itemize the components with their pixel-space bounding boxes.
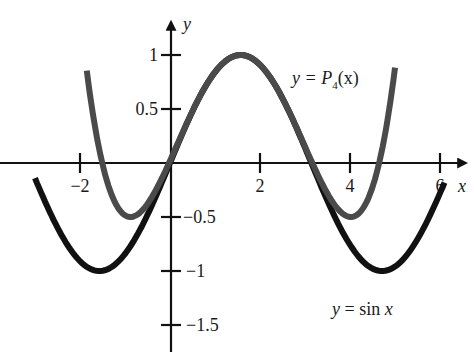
- x-tick-label: 2: [256, 176, 265, 196]
- p4-annotation: y = P4(x): [290, 68, 359, 91]
- y-axis-label: y: [181, 14, 191, 34]
- y-tick-label: 1: [149, 45, 158, 65]
- y-tick-label: −0.5: [183, 207, 216, 227]
- y-tick-label: −1.5: [186, 315, 219, 335]
- y-tick-label: −1: [186, 261, 205, 281]
- x-tick-label: −2: [70, 176, 89, 196]
- sin-annotation: y = sin x: [330, 299, 393, 319]
- y-tick-label: 0.5: [136, 99, 159, 119]
- x-axis-label: x: [457, 176, 466, 196]
- x-tick-label: 4: [346, 176, 355, 196]
- chart-canvas: −224610.5−0.5−1−1.5 y x y = P4(x) y = si…: [0, 0, 474, 363]
- tick-labels: −224610.5−0.5−1−1.5: [70, 45, 444, 335]
